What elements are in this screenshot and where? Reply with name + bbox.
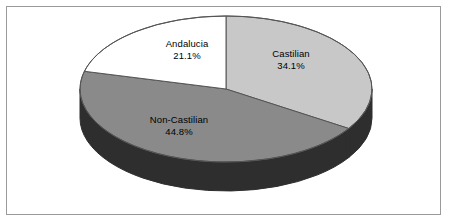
slice-label-andalucia-value: 21.1% xyxy=(141,50,233,62)
pie-chart-canvas xyxy=(0,0,449,223)
pie-chart-figure: Castilian 34.1% Non-Castilian 44.8% Anda… xyxy=(0,0,449,223)
slice-label-non-castilian-value: 44.8% xyxy=(123,126,235,138)
slice-label-non-castilian-name: Non-Castilian xyxy=(123,114,235,126)
slice-label-castilian-name: Castilian xyxy=(248,48,334,60)
slice-label-castilian: Castilian 34.1% xyxy=(248,48,334,71)
slice-label-andalucia-name: Andalucia xyxy=(141,38,233,50)
slice-label-non-castilian: Non-Castilian 44.8% xyxy=(123,114,235,137)
slice-label-andalucia: Andalucia 21.1% xyxy=(141,38,233,61)
slice-label-castilian-value: 34.1% xyxy=(248,60,334,72)
